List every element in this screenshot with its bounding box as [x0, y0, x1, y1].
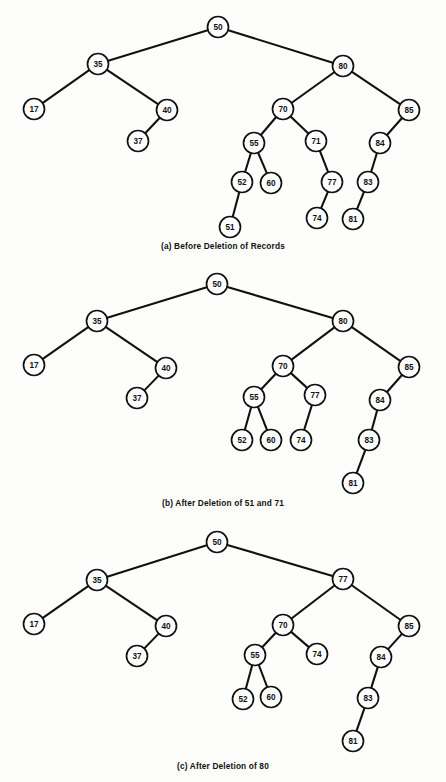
tree-edge-50-80 — [227, 30, 333, 63]
tree-edge-52-51 — [233, 192, 240, 218]
tree-edge-77-74 — [321, 191, 328, 209]
tree-edge-55-60 — [259, 664, 268, 688]
tree-edge-83-81 — [356, 707, 364, 731]
tree-node-77[interactable]: 77 — [305, 385, 326, 406]
node-label-85: 85 — [405, 622, 414, 631]
node-label-17: 17 — [30, 105, 39, 114]
tree-node-52[interactable]: 52 — [232, 430, 253, 451]
node-label-77: 77 — [311, 391, 320, 400]
node-label-74: 74 — [313, 650, 322, 659]
tree-node-51[interactable]: 51 — [220, 217, 241, 238]
tree-node-60[interactable]: 60 — [261, 173, 282, 194]
tree-node-70[interactable]: 70 — [273, 356, 294, 377]
tree-node-60[interactable]: 60 — [261, 430, 282, 451]
tree-edge-80-70 — [291, 72, 335, 103]
tree-node-52[interactable]: 52 — [233, 689, 254, 710]
tree-node-81[interactable]: 81 — [343, 209, 364, 230]
tree-edge-80-85 — [351, 71, 401, 104]
caption-panel-a: (a) Before Deletion of Records — [0, 241, 446, 251]
node-label-51: 51 — [226, 223, 235, 232]
tree-node-81[interactable]: 81 — [343, 731, 364, 752]
tree-edge-35-17 — [42, 70, 90, 104]
tree-edge-70-55 — [262, 632, 277, 648]
node-label-80: 80 — [339, 62, 348, 71]
node-label-50: 50 — [213, 538, 222, 547]
tree-node-52[interactable]: 52 — [232, 172, 253, 193]
tree-node-81[interactable]: 81 — [343, 473, 364, 494]
tree-node-70[interactable]: 70 — [273, 615, 294, 636]
tree-node-70[interactable]: 70 — [273, 99, 294, 120]
tree-node-84[interactable]: 84 — [370, 390, 391, 411]
tree-node-37[interactable]: 37 — [128, 131, 149, 152]
tree-edge-70-55 — [261, 373, 276, 390]
tree-node-74[interactable]: 74 — [307, 644, 328, 665]
tree-node-35[interactable]: 35 — [87, 570, 108, 591]
tree-edge-35-17 — [42, 586, 89, 619]
tree-node-50[interactable]: 50 — [208, 17, 229, 38]
node-label-37: 37 — [133, 394, 142, 403]
tree-edge-55-52 — [246, 665, 253, 690]
node-label-84: 84 — [377, 653, 386, 662]
node-label-81: 81 — [349, 737, 358, 746]
node-label-85: 85 — [405, 363, 414, 372]
caption-panel-c: (c) After Deletion of 80 — [0, 761, 446, 771]
tree-node-40[interactable]: 40 — [157, 100, 178, 121]
tree-edge-77-70 — [291, 585, 335, 619]
node-label-74: 74 — [313, 214, 322, 223]
node-label-70: 70 — [279, 105, 288, 114]
tree-node-17[interactable]: 17 — [24, 355, 45, 376]
tree-edge-50-35 — [106, 545, 207, 577]
tree-node-40[interactable]: 40 — [156, 358, 177, 379]
tree-edge-70-71 — [290, 116, 309, 134]
tree-node-80[interactable]: 80 — [333, 311, 354, 332]
tree-node-60[interactable]: 60 — [261, 687, 282, 708]
node-label-17: 17 — [30, 361, 39, 370]
tree-node-74[interactable]: 74 — [307, 208, 328, 229]
node-label-55: 55 — [250, 139, 259, 148]
node-label-77: 77 — [339, 575, 348, 584]
tree-node-83[interactable]: 83 — [358, 172, 379, 193]
tree-node-35[interactable]: 35 — [87, 311, 108, 332]
tree-edge-70-55 — [260, 117, 276, 136]
tree-edge-35-40 — [105, 585, 158, 620]
node-label-40: 40 — [162, 622, 171, 631]
node-label-81: 81 — [349, 215, 358, 224]
tree-node-77[interactable]: 77 — [333, 569, 354, 590]
node-label-50: 50 — [213, 280, 222, 289]
tree-node-37[interactable]: 37 — [127, 388, 148, 409]
tree-node-71[interactable]: 71 — [306, 131, 327, 152]
tree-node-84[interactable]: 84 — [371, 647, 392, 668]
tree-node-55[interactable]: 55 — [244, 387, 265, 408]
tree-node-55[interactable]: 55 — [244, 133, 265, 154]
tree-node-85[interactable]: 85 — [399, 616, 420, 637]
tree-edge-80-70 — [291, 327, 335, 360]
tree-node-55[interactable]: 55 — [245, 645, 266, 666]
tree-node-37[interactable]: 37 — [127, 646, 148, 667]
tree-edge-80-85 — [351, 327, 401, 362]
node-label-52: 52 — [239, 695, 248, 704]
tree-node-35[interactable]: 35 — [88, 54, 109, 75]
tree-node-83[interactable]: 83 — [359, 430, 380, 451]
tree-node-84[interactable]: 84 — [370, 133, 391, 154]
tree-edge-35-40 — [106, 69, 159, 104]
tree-edge-85-84 — [388, 633, 403, 649]
tree-node-83[interactable]: 83 — [358, 688, 379, 709]
tree-node-74[interactable]: 74 — [291, 430, 312, 451]
tree-node-50[interactable]: 50 — [207, 532, 228, 553]
tree-node-17[interactable]: 17 — [24, 99, 45, 120]
node-label-37: 37 — [134, 137, 143, 146]
node-label-83: 83 — [364, 694, 373, 703]
node-label-84: 84 — [376, 139, 385, 148]
tree-node-17[interactable]: 17 — [24, 614, 45, 635]
tree-edge-35-17 — [42, 327, 89, 360]
tree-node-80[interactable]: 80 — [333, 56, 354, 77]
tree-node-77[interactable]: 77 — [322, 172, 343, 193]
tree-edge-55-52 — [245, 152, 251, 172]
tree-node-40[interactable]: 40 — [156, 616, 177, 637]
node-label-60: 60 — [267, 693, 276, 702]
tree-edge-84-83 — [372, 410, 378, 431]
node-label-77: 77 — [328, 178, 337, 187]
tree-node-85[interactable]: 85 — [399, 357, 420, 378]
tree-node-85[interactable]: 85 — [399, 100, 420, 121]
tree-node-50[interactable]: 50 — [207, 274, 228, 295]
